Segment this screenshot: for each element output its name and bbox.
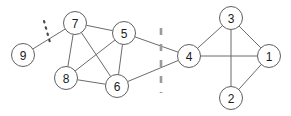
node-label-2: 2: [228, 92, 235, 106]
node-label-9: 9: [20, 49, 27, 63]
node-label-3: 3: [228, 12, 235, 26]
graph-edge-8-5: [75, 40, 115, 71]
graph-diagram: 975864312: [0, 0, 291, 116]
edge-cut-slash: [44, 21, 51, 46]
nodes-layer: 975864312: [12, 7, 281, 110]
node-label-1: 1: [266, 50, 273, 64]
graph-node-2[interactable]: 2: [220, 87, 243, 110]
graph-node-5[interactable]: 5: [113, 22, 136, 45]
graph-node-7[interactable]: 7: [64, 12, 87, 35]
graph-edge-7-8: [68, 34, 73, 66]
graph-node-9[interactable]: 9: [12, 44, 35, 67]
graph-edge-1-2: [239, 65, 262, 90]
node-label-8: 8: [63, 72, 70, 86]
node-label-4: 4: [186, 50, 193, 64]
graph-node-6[interactable]: 6: [106, 75, 129, 98]
graph-edge-3-1: [239, 26, 261, 48]
graph-node-3[interactable]: 3: [220, 7, 243, 30]
graph-edge-8-6: [77, 80, 105, 84]
node-label-5: 5: [121, 27, 128, 41]
graph-node-1[interactable]: 1: [258, 45, 281, 68]
graph-edge-5-4: [135, 37, 178, 52]
graph-edge-6-4: [128, 60, 179, 81]
node-label-6: 6: [114, 80, 121, 94]
graph-node-8[interactable]: 8: [55, 67, 78, 90]
node-label-7: 7: [72, 17, 79, 31]
graph-edge-7-5: [86, 25, 112, 30]
graph-edge-4-3: [198, 26, 223, 49]
graph-edge-5-6: [119, 44, 123, 74]
graph-node-4[interactable]: 4: [178, 45, 201, 68]
